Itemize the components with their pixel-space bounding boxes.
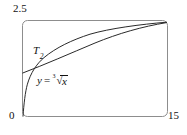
plot-frame bbox=[23, 21, 168, 117]
y-axis-max-label: 2.5 bbox=[13, 3, 27, 14]
taylor-polynomial-label: T2 bbox=[33, 45, 43, 59]
plot-area bbox=[0, 0, 187, 135]
equation-left-side: y bbox=[37, 75, 42, 86]
function-equation-label: y=3√x bbox=[37, 75, 68, 87]
x-axis-max-label: 15 bbox=[168, 110, 179, 121]
equals-sign: = bbox=[44, 75, 50, 86]
origin-label: 0 bbox=[9, 110, 15, 121]
cube-root-radical: 3√x bbox=[52, 75, 68, 87]
figure-container: 2.5 0 15 T2 y=3√x bbox=[0, 0, 187, 135]
taylor-subscript: 2 bbox=[40, 52, 44, 61]
taylor-base-letter: T bbox=[33, 44, 39, 56]
radical-index: 3 bbox=[53, 73, 56, 79]
radical-sign-icon: √ bbox=[57, 75, 63, 86]
